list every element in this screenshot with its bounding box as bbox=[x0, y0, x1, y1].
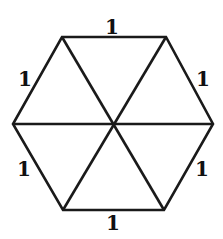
edge-label-lower-right: 1 bbox=[195, 159, 209, 179]
edge-label-upper-right: 1 bbox=[196, 69, 210, 89]
edge-label-top: 1 bbox=[105, 17, 119, 37]
edge-label-bottom: 1 bbox=[106, 213, 120, 233]
edge-label-lower-left: 1 bbox=[17, 159, 31, 179]
hexagon-diagram: 1 1 1 1 1 1 bbox=[0, 0, 223, 239]
edge-label-upper-left: 1 bbox=[18, 69, 32, 89]
